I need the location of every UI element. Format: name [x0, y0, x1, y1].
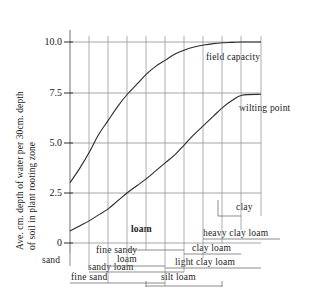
curve-wilting-point	[70, 94, 261, 231]
y-axis-tick-marks	[64, 42, 73, 243]
plot-area	[0, 0, 324, 293]
gridlines	[70, 30, 261, 286]
soil-water-capacity-chart: Ave. cm. depth of water per 30cm. depth …	[0, 0, 324, 293]
curve-field-capacity	[70, 42, 261, 183]
